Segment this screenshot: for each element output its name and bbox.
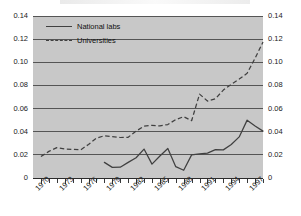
legend: National labs Universities: [46, 22, 166, 48]
series-line-universities: [41, 42, 263, 157]
legend-swatch-universities: [46, 40, 72, 41]
legend-swatch-national-labs: [46, 26, 72, 27]
series-line-national-labs: [104, 120, 263, 170]
legend-label-universities: Universities: [77, 36, 116, 46]
legend-label-national-labs: National labs: [77, 22, 120, 32]
chart-figure: 00.020.040.060.080.100.120.14 00.020.040…: [0, 0, 301, 216]
